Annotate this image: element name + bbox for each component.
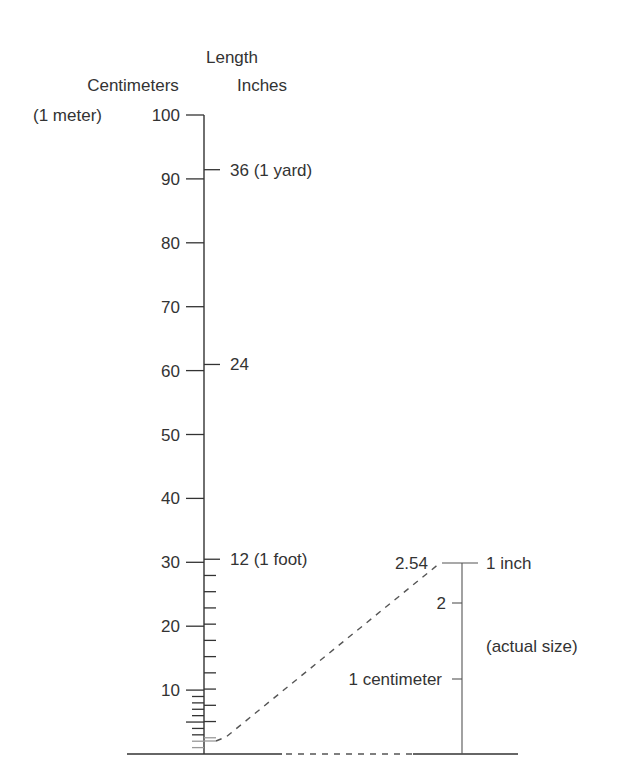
inset-1-inch-label: 1 inch [486,554,531,573]
cm-label-30: 30 [161,553,180,572]
inches-header: Inches [237,76,287,95]
cm-label-80: 80 [161,234,180,253]
connector-dashed-line [216,563,440,741]
inch-labels: 36 (1 yard)2412 (1 foot) [230,161,312,570]
actual-size-scale: 2.54 1 inch 2 1 centimeter (actual size) [348,554,577,754]
inset-actual-size-note: (actual size) [486,637,578,656]
cm-label-60: 60 [161,362,180,381]
inch-label-12: 12 (1 foot) [230,550,308,569]
inset-2-54-label: 2.54 [395,554,428,573]
main-scale: 100908070605040302010 36 (1 yard)2412 (1… [152,106,313,754]
centimeters-header: Centimeters [87,76,179,95]
length-conversion-diagram: Length Centimeters Inches (1 meter) 1009… [0,0,630,779]
cm-label-90: 90 [161,170,180,189]
one-meter-note: (1 meter) [33,106,102,125]
diagram-title: Length [206,48,258,67]
inch-ticks [204,170,220,560]
inset-1-cm-label: 1 centimeter [348,670,442,689]
cm-label-40: 40 [161,489,180,508]
cm-ticks [186,179,204,690]
cm-label-20: 20 [161,617,180,636]
cm-label-10: 10 [161,681,180,700]
small-ticks [186,575,216,747]
inch-label-36: 36 (1 yard) [230,161,312,180]
cm-label-70: 70 [161,298,180,317]
inch-label-24: 24 [230,355,249,374]
inset-2-label: 2 [437,594,446,613]
cm-labels: 100908070605040302010 [152,106,180,700]
cm-label-50: 50 [161,426,180,445]
cm-label-100: 100 [152,106,180,125]
